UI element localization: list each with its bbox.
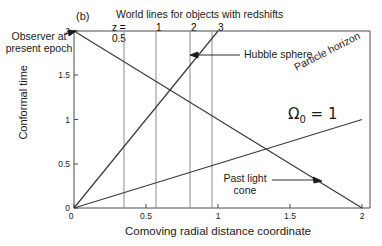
svg-text:2: 2 <box>360 211 365 221</box>
curve-particle-horizon <box>74 120 362 209</box>
y-axis-ticks <box>74 31 78 208</box>
svg-text:0.5: 0.5 <box>140 211 152 221</box>
worldline-gridlines <box>124 31 212 208</box>
svg-text:1.5: 1.5 <box>284 211 296 221</box>
x-axis-ticks <box>74 204 362 208</box>
hubble-leader-arrow <box>190 52 198 58</box>
plot-frame <box>74 31 370 208</box>
observer-leader-arrow <box>68 30 76 36</box>
svg-text:1.5: 1.5 <box>58 70 70 80</box>
chart-svg: 0 0.5 1 1.5 2 0 0.5 1 1.5 2 <box>0 0 382 246</box>
figure-root: (b) World lines for objects with redshif… <box>0 0 382 246</box>
svg-text:0.5: 0.5 <box>58 159 70 169</box>
y-tick-labels: 0 0.5 1 1.5 2 <box>58 26 70 213</box>
svg-text:1: 1 <box>65 115 70 125</box>
svg-text:0: 0 <box>69 211 74 221</box>
x-tick-labels: 0 0.5 1 1.5 2 <box>69 211 365 221</box>
svg-text:1: 1 <box>216 211 221 221</box>
